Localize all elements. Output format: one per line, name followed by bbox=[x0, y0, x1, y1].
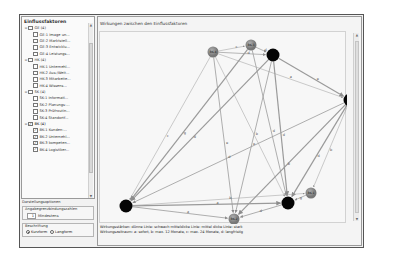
legend-timeframe: Wirkungszeitraum: a: sofort, b: max. 12 … bbox=[100, 230, 243, 235]
edge-label: a bbox=[217, 201, 219, 205]
factors-tree: ⊟GE (4)GE-1 Image un...GE-2 Marktstell..… bbox=[24, 25, 88, 153]
radio-kurzform[interactable]: Kurzform bbox=[26, 230, 47, 234]
radio-langform[interactable]: Langform bbox=[50, 230, 72, 234]
factors-tree-panel: Einflussfaktoren ⊟GE (4)GE-1 Image un...… bbox=[21, 16, 95, 199]
edge-label: c bbox=[235, 45, 237, 49]
edge-label: a bbox=[187, 210, 189, 214]
tree-item-label: SK-3 Prüfroutin... bbox=[40, 109, 70, 113]
checkbox[interactable]: ✓ bbox=[33, 141, 38, 146]
influence-edge bbox=[314, 106, 347, 187]
edge-label: b bbox=[256, 132, 259, 136]
checkbox[interactable] bbox=[28, 58, 33, 63]
graph-scroll-thumb[interactable] bbox=[355, 41, 359, 213]
influence-edge bbox=[218, 52, 265, 54]
checkbox[interactable] bbox=[33, 83, 38, 88]
edge-label: b bbox=[288, 162, 291, 166]
influence-graph-canvas[interactable]: cddeadgceeddbdbdbabadgBK-4BK-3BK-1BK-2 bbox=[99, 31, 346, 223]
edge-label: d bbox=[273, 129, 275, 133]
checkbox[interactable] bbox=[33, 115, 38, 120]
tree-item-label: HK-4 Wissens... bbox=[40, 84, 67, 88]
main-panel: Wirkungen zwischen den Einflussfaktoren … bbox=[97, 16, 362, 246]
scroll-down-icon[interactable]: ▼ bbox=[354, 217, 360, 221]
edge-label: g bbox=[184, 131, 186, 135]
edge-label: d bbox=[317, 154, 319, 158]
tree-scroll-thumb[interactable] bbox=[89, 43, 93, 173]
influence-edge bbox=[236, 61, 272, 212]
tree-item-label: BK-3 kompeten... bbox=[40, 141, 71, 145]
checkbox[interactable] bbox=[28, 26, 33, 31]
tree-item-label: HK-2 Aus-/Weit... bbox=[40, 71, 70, 75]
edge-label: d bbox=[248, 51, 250, 55]
tree-scrollbar[interactable]: ▲ ▼ bbox=[88, 23, 93, 198]
checkbox[interactable] bbox=[28, 90, 33, 95]
influence-edge bbox=[130, 57, 211, 200]
threshold-unit-label: Mindestens bbox=[38, 213, 59, 219]
threshold-group-title: Angabegrenzbindungszahlen bbox=[25, 207, 77, 211]
tree-item[interactable]: ✓BK-4 Logistiker... bbox=[24, 146, 88, 152]
factor-node[interactable] bbox=[267, 49, 280, 62]
influence-graph[interactable]: cddeadgceeddbdbdbabadgBK-4BK-3BK-1BK-2 bbox=[100, 32, 347, 224]
tree-item-label: HK (4) bbox=[35, 58, 46, 62]
left-panel: Einflussfaktoren ⊟GE (4)GE-1 Image un...… bbox=[21, 16, 95, 246]
checkbox[interactable] bbox=[33, 32, 38, 37]
checkbox[interactable] bbox=[33, 52, 38, 57]
influence-edge bbox=[132, 203, 280, 206]
tree-item-label: BK (4) bbox=[35, 122, 46, 126]
factors-title: Einflussfaktoren bbox=[24, 19, 66, 24]
checkbox[interactable]: ✓ bbox=[33, 128, 38, 133]
checkbox[interactable] bbox=[33, 45, 38, 50]
edge-label: d bbox=[194, 135, 196, 139]
tree-item-label: BK-2 Unternehl... bbox=[40, 135, 70, 139]
node-label: BK-2 bbox=[231, 217, 238, 221]
node-label: BK-3 bbox=[248, 43, 255, 47]
edge-label: c bbox=[167, 134, 169, 138]
edge-label: e bbox=[317, 77, 319, 81]
radio-selected-icon[interactable] bbox=[26, 230, 30, 234]
edge-label: e bbox=[226, 141, 228, 145]
influence-edge bbox=[279, 58, 344, 96]
checkbox[interactable] bbox=[33, 64, 38, 69]
checkbox[interactable] bbox=[33, 109, 38, 114]
factor-node[interactable] bbox=[282, 197, 295, 210]
tree-item-label: HK-3 Mitarbeite... bbox=[40, 77, 71, 81]
edge-label: g bbox=[300, 196, 302, 200]
checkbox[interactable] bbox=[33, 39, 38, 44]
tree-item-label: BK-4 Logistiker... bbox=[40, 148, 70, 152]
tree-item-label: GE-2 Marktstell... bbox=[40, 39, 71, 43]
checkbox[interactable]: ✓ bbox=[28, 122, 33, 127]
influence-edge bbox=[131, 49, 248, 200]
scroll-down-icon[interactable]: ▼ bbox=[89, 194, 93, 198]
factor-node[interactable] bbox=[120, 200, 133, 213]
checkbox[interactable]: ✓ bbox=[33, 147, 38, 152]
checkbox[interactable] bbox=[33, 96, 38, 101]
legend: Wirkungsstärken: dünne Linie: schwach mi… bbox=[100, 225, 243, 235]
edge-label: d bbox=[283, 133, 285, 137]
tree-item-label: GE-3 Entwicklu... bbox=[40, 45, 70, 49]
checkbox[interactable]: ✓ bbox=[33, 135, 38, 140]
checkbox[interactable] bbox=[33, 71, 38, 76]
application-window: Einflussfaktoren ⊟GE (4)GE-1 Image un...… bbox=[19, 14, 364, 248]
influence-edge bbox=[218, 54, 343, 98]
edge-label: d bbox=[228, 155, 230, 159]
tree-item-label: SK (4) bbox=[35, 90, 46, 94]
labeling-group-title: Beschriftung bbox=[25, 224, 48, 228]
radio-unselected-icon[interactable] bbox=[50, 230, 54, 234]
threshold-group: Angabegrenzbindungszahlen 1 Mindestens bbox=[22, 206, 94, 220]
checkbox[interactable] bbox=[33, 103, 38, 108]
tree-item-label: SK-2 Planungs-... bbox=[40, 103, 70, 107]
threshold-spinner[interactable]: 1 bbox=[27, 213, 36, 219]
labeling-group: Beschriftung Kurzform Langform bbox=[22, 223, 94, 237]
influence-edge bbox=[131, 60, 268, 201]
tree-item-label: GE-4 Leistungs... bbox=[40, 52, 70, 56]
edge-label: d bbox=[260, 209, 262, 213]
tree-item-label: GE (4) bbox=[35, 26, 46, 30]
scroll-up-icon[interactable]: ▲ bbox=[89, 23, 93, 27]
scroll-up-icon[interactable]: ▲ bbox=[354, 33, 360, 37]
graph-scrollbar[interactable]: ▲ ▼ bbox=[353, 33, 359, 221]
edge-label: a bbox=[290, 75, 292, 79]
influence-edge bbox=[132, 207, 227, 218]
tree-item-label: BK-1 Kunden-... bbox=[40, 128, 67, 132]
checkbox[interactable] bbox=[33, 77, 38, 82]
node-label: BK-4 bbox=[210, 50, 217, 54]
edge-label: b bbox=[330, 148, 333, 152]
